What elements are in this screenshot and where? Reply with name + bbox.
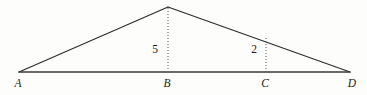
figure-canvas: [0, 0, 367, 95]
vertex-label-a: A: [14, 78, 21, 90]
side-a-apex-line: [19, 7, 168, 72]
vertex-label-d: D: [348, 78, 356, 90]
side-apex-d-line: [168, 7, 350, 72]
measure-label-altitude-c: 2: [251, 44, 257, 56]
vertex-label-b: B: [163, 78, 170, 90]
measure-label-altitude-b: 5: [152, 44, 158, 56]
geometry-figure: A B C D 5 2: [0, 0, 367, 95]
vertex-label-c: C: [261, 78, 269, 90]
